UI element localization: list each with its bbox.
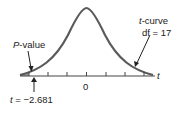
curve-label: t-curve [139, 16, 168, 26]
axis-variable-label: t [157, 71, 160, 81]
tstat-label: t = −2.681 [10, 95, 53, 105]
tstat-arrow [31, 77, 37, 92]
axis-ticks [29, 72, 144, 76]
pvalue-label: P-value [13, 40, 45, 50]
curve-label-arrow [134, 35, 150, 67]
pvalue-arrow [28, 51, 34, 72]
zero-tick-label: 0 [83, 82, 88, 92]
df-label: df = 17 [142, 28, 171, 38]
